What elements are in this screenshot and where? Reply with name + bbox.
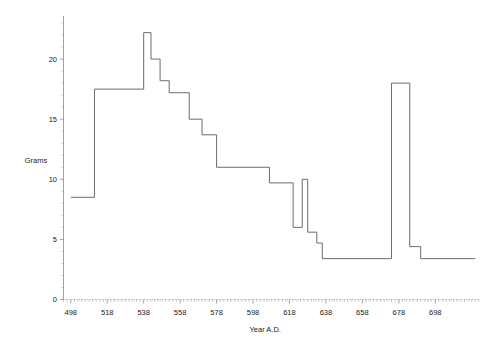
x-axis-tick-label: 558: [174, 308, 187, 317]
x-axis-tick-label: 578: [210, 308, 223, 317]
y-axis-title: Grams: [25, 156, 48, 165]
x-axis-tick-label: 518: [101, 308, 114, 317]
x-axis-title: Year A.D.: [250, 325, 281, 334]
x-axis-tick-label: 598: [247, 308, 260, 317]
x-axis-tick-label: 678: [393, 308, 406, 317]
x-axis-tick-label: 638: [320, 308, 333, 317]
chart-container: 0510152049851853855857859861863865867869…: [0, 0, 500, 343]
x-axis-tick-label: 698: [429, 308, 442, 317]
x-axis-tick-label: 658: [356, 308, 369, 317]
data-step-line: [71, 33, 476, 259]
y-axis-tick-label: 20: [49, 55, 57, 64]
x-axis-tick-label: 498: [65, 308, 78, 317]
y-axis-tick-label: 5: [53, 235, 57, 244]
y-axis-tick-label: 0: [53, 295, 57, 304]
step-chart-svg: 0510152049851853855857859861863865867869…: [0, 0, 500, 343]
x-axis-tick-label: 538: [137, 308, 150, 317]
y-axis-tick-label: 10: [49, 175, 57, 184]
y-axis-tick-label: 15: [49, 115, 57, 124]
x-axis-tick-label: 618: [283, 308, 296, 317]
